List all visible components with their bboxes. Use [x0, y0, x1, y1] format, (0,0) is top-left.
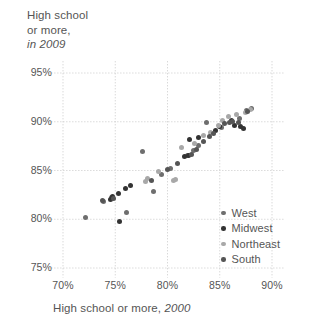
- data-point-northeast: [192, 141, 197, 146]
- legend: WestMidwestNortheastSouth: [221, 205, 280, 267]
- data-point-south: [194, 147, 199, 152]
- legend-item-northeast[interactable]: Northeast: [221, 236, 280, 252]
- y-axis-tick-label: 75%: [18, 261, 52, 273]
- legend-dot-icon: [221, 211, 226, 216]
- data-point-south: [165, 167, 170, 172]
- legend-dot-icon: [221, 226, 226, 231]
- y-axis-tick-label: 80%: [18, 212, 52, 224]
- x-axis-title: High school or more, 2000: [53, 302, 190, 314]
- x-axis-tick-label: 75%: [97, 279, 133, 291]
- data-point-northeast: [156, 169, 161, 174]
- data-point-south: [111, 196, 116, 201]
- grid-lines: [0, 0, 309, 325]
- x-axis-tick-label: 80%: [150, 279, 186, 291]
- data-point-midwest: [187, 137, 192, 142]
- data-point-west: [204, 120, 209, 125]
- legend-dot-icon: [221, 242, 226, 247]
- x-axis-tick-label: 70%: [45, 279, 81, 291]
- legend-label: Northeast: [232, 238, 281, 250]
- legend-item-west[interactable]: West: [221, 205, 280, 221]
- legend-label: West: [232, 207, 257, 219]
- y-axis-tick-label: 85%: [18, 164, 52, 176]
- data-point-northeast: [201, 133, 206, 138]
- data-point-south: [211, 131, 216, 136]
- x-axis-tick-label: 90%: [254, 279, 290, 291]
- data-point-midwest: [117, 219, 122, 224]
- y-axis-tick-label: 90%: [18, 115, 52, 127]
- x-axis-title-text: High school or more,: [53, 302, 164, 314]
- y-axis-tick-label: 95%: [18, 66, 52, 78]
- x-axis-tick-label: 85%: [202, 279, 238, 291]
- legend-label: Midwest: [232, 222, 273, 234]
- legend-item-midwest[interactable]: Midwest: [221, 221, 280, 237]
- legend-dot-icon: [221, 257, 226, 262]
- data-point-northeast: [179, 145, 184, 150]
- data-point-south: [201, 139, 206, 144]
- data-point-west: [140, 149, 145, 154]
- scatter-chart: High schoolor more,in 2009 95%90%85%80%7…: [0, 0, 309, 325]
- legend-label: South: [232, 253, 261, 265]
- x-axis-title-year: 2000: [164, 302, 190, 314]
- legend-item-south[interactable]: South: [221, 252, 280, 268]
- plot-area: 95%90%85%80%75% 70%75%80%85%90%: [0, 0, 309, 325]
